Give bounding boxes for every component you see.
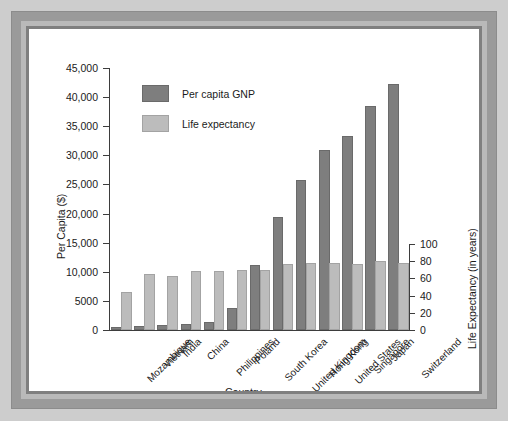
bar-per-capita-gnp xyxy=(181,324,192,330)
bar-life-expectancy xyxy=(329,263,340,330)
y-axis-left-tick-label: 10,000 xyxy=(29,267,98,277)
bar-life-expectancy xyxy=(214,271,225,330)
x-axis-title: Country xyxy=(225,386,262,391)
bar-per-capita-gnp xyxy=(134,326,145,330)
bar-per-capita-gnp xyxy=(365,106,376,330)
y-axis-left-tick-label: 40,000 xyxy=(29,92,98,102)
y-axis-left-tick-label: 45,000 xyxy=(29,63,98,73)
y-axis-right-tick xyxy=(409,313,415,314)
y-axis-left-title: Per Capita ($) xyxy=(55,194,67,259)
y-axis-right-tick xyxy=(409,278,415,279)
chart-canvas: 0500010,00015,00020,00025,00030,00035,00… xyxy=(29,29,479,391)
bar-per-capita-gnp xyxy=(342,136,353,330)
x-axis-category-label: Switzerland xyxy=(420,336,464,380)
legend-swatch-life xyxy=(142,115,169,132)
legend-item: Life expectancy xyxy=(142,115,255,132)
bar-per-capita-gnp xyxy=(250,265,261,330)
y-axis-right-tick-label: 20 xyxy=(420,308,432,318)
picture-frame-bevel: 0500010,00015,00020,00025,00030,00035,00… xyxy=(21,21,487,399)
bar-life-expectancy xyxy=(398,263,409,330)
y-axis-right-tick-label: 80 xyxy=(420,256,432,266)
bar-per-capita-gnp xyxy=(227,308,238,330)
bar-per-capita-gnp xyxy=(273,217,284,330)
y-axis-right-tick xyxy=(409,296,415,297)
bar-life-expectancy xyxy=(283,264,294,331)
bar-life-expectancy xyxy=(260,270,271,331)
y-axis-right-tick-label: 60 xyxy=(420,273,432,283)
bar-per-capita-gnp xyxy=(388,84,399,331)
y-axis-left-tick-label: 0 xyxy=(29,325,98,335)
legend-item: Per capita GNP xyxy=(142,85,255,102)
picture-frame-inner: 0500010,00015,00020,00025,00030,00035,00… xyxy=(26,26,482,394)
bar-life-expectancy xyxy=(144,274,155,330)
bar-life-expectancy xyxy=(237,270,248,330)
bar-per-capita-gnp xyxy=(157,325,168,330)
legend-label: Per capita GNP xyxy=(182,88,255,100)
bar-life-expectancy xyxy=(167,276,178,330)
y-axis-right-tick-label: 0 xyxy=(420,325,426,335)
y-axis-right-tick xyxy=(409,330,415,331)
bar-life-expectancy xyxy=(191,271,202,330)
legend-swatch-gnp xyxy=(142,85,169,102)
y-axis-left-tick-label: 30,000 xyxy=(29,150,98,160)
bar-life-expectancy xyxy=(121,292,132,330)
x-axis-category-label: China xyxy=(204,336,230,362)
y-axis-right-title: Life Expectancy (in years) xyxy=(466,228,478,349)
bar-life-expectancy xyxy=(306,263,317,330)
y-axis-left-tick-label: 25,000 xyxy=(29,179,98,189)
bar-per-capita-gnp xyxy=(111,327,122,330)
x-axis-line xyxy=(109,330,409,331)
y-axis-right-tick xyxy=(409,261,415,262)
y-axis-right-line xyxy=(409,244,410,330)
y-axis-right-tick-label: 100 xyxy=(420,239,438,249)
bar-per-capita-gnp xyxy=(296,180,307,330)
y-axis-left-tick xyxy=(103,330,109,331)
y-axis-left-tick-label: 35,000 xyxy=(29,121,98,131)
bar-per-capita-gnp xyxy=(204,322,215,330)
y-axis-left-tick-label: 5000 xyxy=(29,296,98,306)
bar-life-expectancy xyxy=(375,261,386,330)
y-axis-right-tick xyxy=(409,244,415,245)
legend-label: Life expectancy xyxy=(182,118,255,130)
bar-per-capita-gnp xyxy=(319,150,330,330)
bar-life-expectancy xyxy=(352,264,363,331)
picture-frame-outer: 0500010,00015,00020,00025,00030,00035,00… xyxy=(12,12,496,408)
chart-plot-area: 0500010,00015,00020,00025,00030,00035,00… xyxy=(29,29,479,391)
y-axis-right-tick-label: 40 xyxy=(420,291,432,301)
chart-legend: Per capita GNPLife expectancy xyxy=(142,85,322,141)
